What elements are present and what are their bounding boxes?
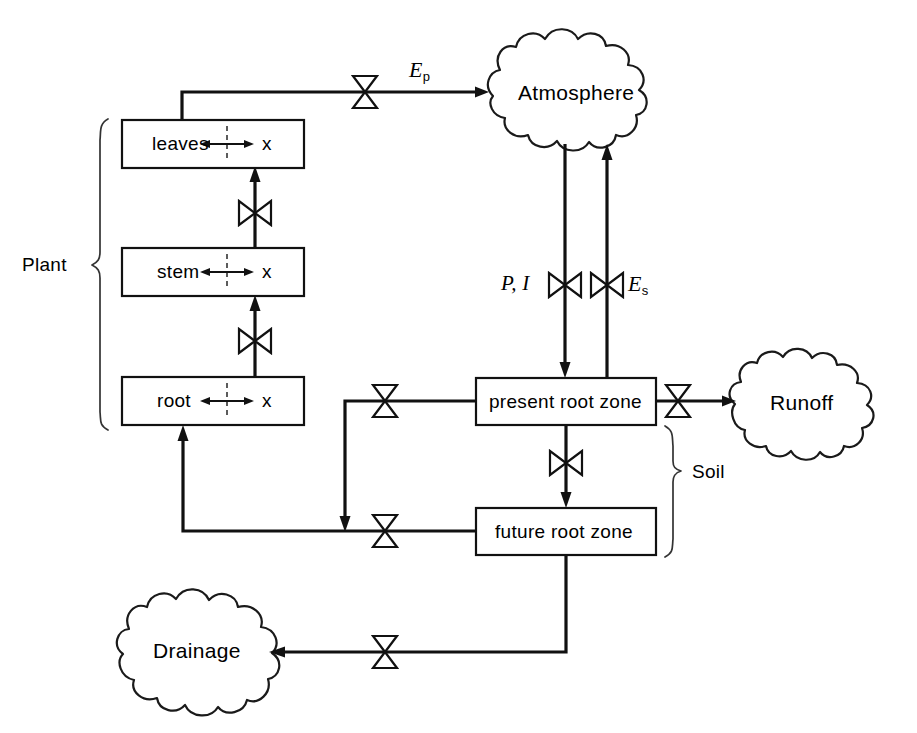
box-label-stem: stem [157, 261, 199, 283]
box-label-present-root-zone: present root zone [489, 391, 642, 413]
flow-root-to-stem [250, 295, 261, 377]
cloud-label-runoff: Runoff [770, 391, 833, 415]
flow-label-ep-base: E [409, 57, 423, 82]
box-leaves[interactable] [122, 120, 304, 168]
box-suffix-stem: x [262, 261, 272, 283]
box-label-future-root-zone: future root zone [495, 521, 633, 543]
flow-present-to-runoff [656, 396, 736, 407]
box-root[interactable] [122, 377, 304, 425]
box-label-root: root [157, 390, 191, 412]
diagram-canvas: leaves x stem x root x present root zone… [0, 0, 917, 733]
flow-label-es-sub: s [642, 283, 649, 298]
flow-label-ep-sub: p [423, 69, 430, 84]
flow-label-ep: Ep [409, 57, 430, 83]
flow-label-pi-text: P, I [501, 271, 529, 295]
group-label-soil: Soil [692, 461, 725, 483]
brace-soil [665, 426, 681, 557]
flow-present-to-atmosphere [602, 144, 613, 378]
cloud-label-drainage: Drainage [153, 639, 241, 663]
diagram-svg [0, 0, 917, 733]
group-label-plant: Plant [22, 254, 67, 276]
flow-present-to-root [340, 401, 477, 532]
box-label-leaves: leaves [152, 133, 209, 155]
flow-stem-to-leaves [250, 166, 261, 248]
brace-plant [92, 119, 108, 430]
flow-leaves-to-atmosphere [182, 87, 489, 121]
flow-future-to-drainage [269, 555, 566, 658]
flow-label-pi: P, I [501, 271, 529, 296]
flow-atmosphere-to-present [560, 144, 571, 378]
box-suffix-leaves: x [262, 133, 272, 155]
box-suffix-root: x [262, 390, 272, 412]
cloud-label-atmosphere: Atmosphere [518, 81, 634, 105]
flow-label-es-base: E [628, 271, 642, 296]
flow-future-to-root [178, 425, 477, 531]
flow-label-es: Es [628, 271, 648, 297]
box-stem[interactable] [122, 248, 304, 296]
